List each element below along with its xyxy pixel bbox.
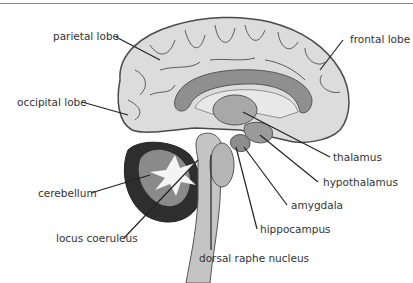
label-hippocampus: hippocampus	[260, 223, 331, 235]
label-dorsal-raphe-nucleus: dorsal raphe nucleus	[199, 252, 309, 264]
label-parietal-lobe: parietal lobe	[53, 30, 119, 42]
label-occipital-lobe: occipital lobe	[17, 96, 87, 108]
label-frontal-lobe: frontal lobe	[350, 33, 410, 45]
label-amygdala: amygdala	[291, 199, 343, 211]
label-hypothalamus: hypothalamus	[323, 176, 398, 188]
label-locus-coeruleus: locus coeruleus	[56, 232, 138, 244]
amygdala-region	[230, 135, 250, 152]
thalamus	[213, 95, 257, 125]
pons	[210, 143, 234, 187]
label-cerebellum: cerebellum	[38, 187, 97, 199]
label-thalamus: thalamus	[333, 151, 382, 163]
